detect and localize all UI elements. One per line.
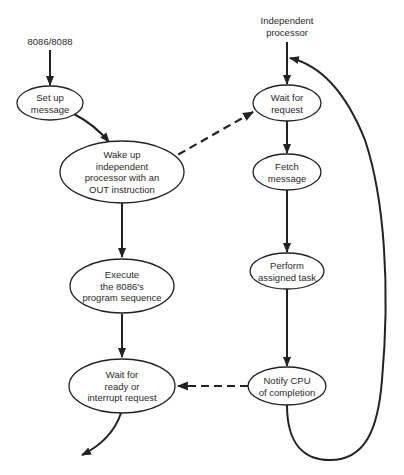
text-line: Fetch: [268, 161, 307, 173]
edge-wakeup-to-waitrequest: [167, 112, 253, 161]
text-line: request: [271, 103, 303, 115]
node-setup-message-text: Set up message: [31, 92, 70, 115]
text-line: message: [31, 103, 70, 115]
text-line: OUT instruction: [85, 184, 159, 196]
node-wakeup-text: Wake up independent processor with an OU…: [85, 149, 159, 195]
edge-waitready-exit: [82, 413, 121, 455]
text-line: ready or: [87, 380, 156, 392]
text-line: Wait for: [87, 369, 156, 381]
start-label-cpu: 8086/8088: [28, 36, 73, 48]
start-label-processor-line2: processor: [261, 26, 314, 38]
start-label-processor-line1: Independent: [261, 15, 314, 27]
node-perform-task-text: Perform assigned task: [258, 260, 316, 283]
node-execute-text: Execute the 8086's program sequence: [82, 269, 161, 304]
text-line: program sequence: [82, 292, 161, 304]
flowchart-canvas: [0, 0, 404, 475]
text-line: Wait for: [271, 92, 303, 104]
text-line: message: [268, 172, 307, 184]
text-line: assigned task: [258, 271, 316, 283]
text-line: Wake up: [85, 149, 159, 161]
text-line: interrupt request: [87, 392, 156, 404]
node-fetch-message-text: Fetch message: [268, 161, 307, 184]
text-line: the 8086's: [82, 280, 161, 292]
text-line: processor with an: [85, 172, 159, 184]
node-wait-ready-text: Wait for ready or interrupt request: [87, 369, 156, 404]
node-wait-request-text: Wait for request: [271, 92, 303, 115]
text-line: Notify CPU: [259, 375, 316, 387]
node-notify-cpu-text: Notify CPU of completion: [259, 375, 316, 398]
text-line: Set up: [31, 92, 70, 104]
text-line: Perform: [258, 260, 316, 272]
text-line: independent: [85, 161, 159, 173]
start-label-processor: Independent processor: [261, 15, 314, 38]
text-line: of completion: [259, 386, 316, 398]
edge-setup-to-wakeup: [74, 114, 109, 142]
text-line: Execute: [82, 269, 161, 281]
